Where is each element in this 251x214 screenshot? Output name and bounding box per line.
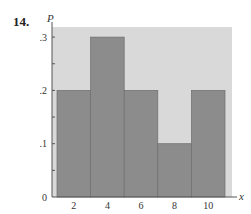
probability-histogram: 0.1.2.3246810xP (0, 0, 251, 214)
x-tick-label: 10 (203, 200, 213, 211)
x-tick-label: 6 (139, 200, 144, 211)
x-tick-label: 4 (105, 200, 110, 211)
histogram-bar (91, 37, 125, 197)
y-tick-label: .2 (40, 85, 48, 96)
y-axis-label: P (46, 12, 54, 24)
x-tick-label: 2 (71, 200, 76, 211)
histogram-bar (191, 90, 225, 197)
histogram-bar (158, 144, 192, 197)
y-tick-label: .1 (40, 138, 48, 149)
y-tick-label: 0 (42, 192, 47, 203)
histogram-bar (124, 90, 158, 197)
histogram-bar (57, 90, 91, 197)
x-axis-label: x (238, 190, 244, 202)
y-tick-label: .3 (40, 32, 48, 43)
x-tick-label: 8 (172, 200, 177, 211)
